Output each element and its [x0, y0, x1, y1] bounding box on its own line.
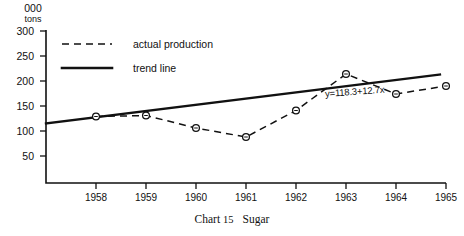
x-tick-label-1963: 1963 [326, 192, 366, 203]
x-tick-label-1958: 1958 [76, 192, 116, 203]
trend-line-series [46, 75, 440, 124]
y-tick-label-100: 100 [6, 125, 34, 137]
actual-production-series [96, 74, 446, 137]
chart-figure: 000 tons [0, 0, 464, 236]
x-tick-label-1959: 1959 [126, 192, 166, 203]
caption-prefix: Chart [195, 213, 221, 225]
caption-name: Sugar [236, 213, 270, 225]
x-tick-label-1961: 1961 [226, 192, 266, 203]
chart-caption: Chart15Sugar [0, 213, 464, 225]
axis-lines [46, 30, 446, 183]
legend-label-actual-production: actual production [133, 38, 213, 50]
y-tick-label-250: 250 [6, 50, 34, 62]
x-tick-label-1965: 1965 [426, 192, 464, 203]
y-tick-label-150: 150 [6, 100, 34, 112]
x-axis-ticks [96, 183, 446, 189]
x-tick-label-1964: 1964 [376, 192, 416, 203]
legend-label-trend-line: trend line [133, 62, 176, 74]
y-tick-label-200: 200 [6, 75, 34, 87]
x-tick-label-1960: 1960 [176, 192, 216, 203]
y-tick-label-50: 50 [6, 150, 34, 162]
y-axis-ticks [40, 31, 46, 156]
y-tick-label-300: 300 [6, 25, 34, 37]
marker-centers [94, 74, 448, 137]
x-tick-label-1962: 1962 [276, 192, 316, 203]
caption-number: 15 [220, 214, 236, 225]
